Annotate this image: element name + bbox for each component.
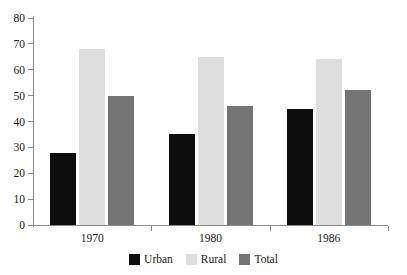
x-axis-label-1980: 1980 xyxy=(151,231,269,246)
y-tick-label: 10 xyxy=(14,191,26,207)
legend-label: Urban xyxy=(144,252,173,266)
bar-chart: 01020304050607080 197019801986 UrbanRura… xyxy=(0,0,407,275)
y-tick-label: 80 xyxy=(14,10,26,26)
legend-item-rural: Rural xyxy=(186,252,227,266)
bar-urban-1986 xyxy=(287,109,313,225)
bar-total-1970 xyxy=(108,96,134,225)
y-tick-label: 0 xyxy=(19,217,25,233)
y-tick-label: 30 xyxy=(14,139,26,155)
bar-total-1980 xyxy=(227,106,253,225)
bar-rural-1970 xyxy=(79,49,105,225)
bar-urban-1980 xyxy=(169,134,195,225)
y-tick-label: 20 xyxy=(14,165,26,181)
y-tick-label: 50 xyxy=(14,88,26,104)
legend-item-total: Total xyxy=(239,252,277,266)
legend-swatch-icon xyxy=(239,254,250,265)
bar-rural-1980 xyxy=(198,57,224,225)
chart-legend: UrbanRuralTotal xyxy=(0,252,407,266)
bar-rural-1986 xyxy=(316,59,342,225)
y-tick-label: 60 xyxy=(14,62,26,78)
bar-total-1986 xyxy=(345,90,371,225)
legend-label: Rural xyxy=(201,252,227,266)
legend-swatch-icon xyxy=(186,254,197,265)
x-axis-label-1970: 1970 xyxy=(33,231,151,246)
x-tick-mark xyxy=(388,226,389,231)
legend-label: Total xyxy=(254,252,277,266)
plot-area xyxy=(33,18,388,225)
x-axis-label-1986: 1986 xyxy=(270,231,388,246)
y-tick-label: 70 xyxy=(14,36,26,52)
legend-item-urban: Urban xyxy=(129,252,173,266)
legend-swatch-icon xyxy=(129,254,140,265)
x-axis-line xyxy=(33,225,388,226)
y-tick-label: 40 xyxy=(14,114,26,130)
bar-urban-1970 xyxy=(50,153,76,225)
